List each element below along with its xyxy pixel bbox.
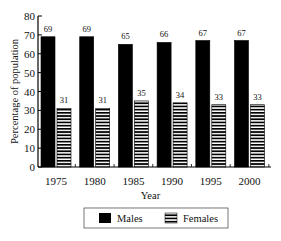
x-tick-label: 1990 — [161, 175, 184, 187]
bar-females-2000 — [251, 105, 265, 167]
y-tick-label: 0 — [30, 161, 36, 173]
bar-males-1990 — [157, 42, 171, 167]
legend-label-females: Females — [183, 213, 218, 224]
x-axis-label: Year — [141, 190, 161, 201]
legend: MalesFemales — [84, 208, 228, 228]
legend-swatch-males — [99, 213, 111, 223]
bar-males-1975 — [41, 37, 55, 167]
x-tick-label: 2000 — [239, 175, 262, 187]
bars — [41, 37, 265, 167]
bar-value-label: 31 — [98, 95, 107, 105]
bar-females-1985 — [134, 101, 148, 167]
y-tick-label: 40 — [24, 86, 36, 98]
bar-males-1980 — [80, 37, 94, 167]
bar-value-label: 69 — [44, 24, 53, 34]
bar-value-label: 33 — [253, 92, 262, 102]
legend-label-males: Males — [117, 213, 143, 224]
bar-value-label: 67 — [237, 28, 246, 38]
bar-value-label: 67 — [199, 28, 208, 38]
legend-swatch-females — [165, 213, 177, 223]
bar-value-label: 66 — [160, 29, 169, 39]
bar-males-1985 — [118, 44, 132, 167]
bar-females-1990 — [173, 103, 187, 167]
y-tick-label: 10 — [24, 142, 36, 154]
bar-females-1980 — [96, 108, 110, 167]
bar-males-1995 — [196, 41, 210, 167]
y-tick-label: 60 — [24, 48, 36, 60]
y-tick-label: 80 — [24, 10, 36, 22]
y-axis-label: Percentage of population — [9, 38, 20, 144]
bar-males-2000 — [235, 41, 249, 167]
x-tick-label: 1975 — [45, 175, 68, 187]
bar-chart: 01020304050607080Percentage of populatio… — [0, 0, 281, 241]
x-tick-label: 1985 — [122, 175, 145, 187]
bar-value-label: 34 — [176, 90, 185, 100]
bar-females-1995 — [212, 105, 226, 167]
bar-value-label: 31 — [60, 95, 69, 105]
bar-value-label: 65 — [121, 31, 130, 41]
x-tick-label: 1995 — [200, 175, 223, 187]
bar-value-label: 69 — [82, 24, 91, 34]
y-tick-label: 50 — [24, 67, 36, 79]
bar-value-label: 33 — [215, 92, 224, 102]
y-tick-label: 70 — [24, 29, 36, 41]
bar-value-label: 35 — [137, 88, 146, 98]
y-tick-label: 30 — [24, 104, 36, 116]
labels: 6931197569311980653519856634199067331995… — [44, 24, 262, 201]
bar-females-1975 — [57, 108, 71, 167]
y-tick-label: 20 — [24, 123, 36, 135]
x-tick-label: 1980 — [84, 175, 107, 187]
